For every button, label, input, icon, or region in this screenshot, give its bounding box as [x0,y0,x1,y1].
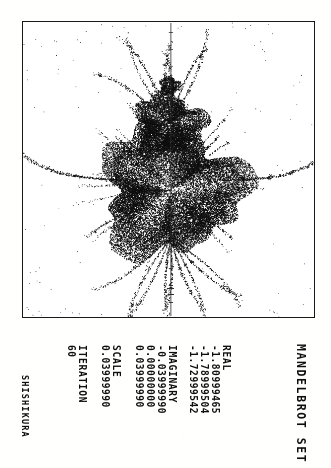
plot-frame [22,21,315,318]
iteration-label: ITERATION [77,345,87,403]
scale-label: SCALE [111,345,121,377]
real-value-max: -1.72999542 [188,345,198,414]
imaginary-value-max: 0.03999990 [134,345,144,408]
scanned-page: MANDELBROT SET REAL -1.80999465 -1.78999… [0,0,331,468]
signature: SHISHIKURA [20,375,29,438]
page-title: MANDELBROT SET [295,344,307,463]
scale-value: 0.03999990 [100,345,110,408]
mandelbrot-plot [23,22,314,317]
real-value-min: -1.80999465 [210,345,220,414]
real-label: REAL [221,345,231,371]
imaginary-label: IMAGINARY [167,345,177,403]
imaginary-value-min: -0.03999990 [156,345,166,414]
real-value-mid: -1.78999504 [199,345,209,414]
iteration-value: 60 [66,345,76,358]
imaginary-value-mid: 0.00000000 [145,345,155,408]
